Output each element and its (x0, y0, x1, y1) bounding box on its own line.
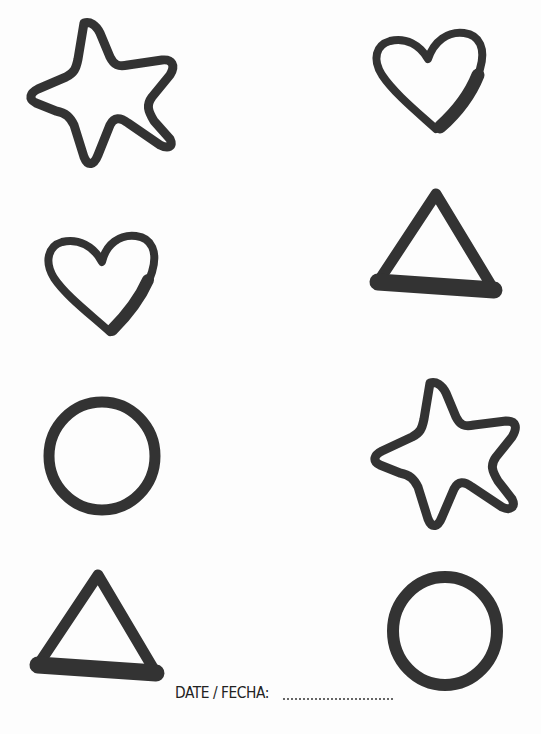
worksheet-page: DATE / FECHA: (0, 0, 541, 734)
triangle-shape-left[interactable] (30, 565, 166, 685)
date-field: DATE / FECHA: (175, 684, 393, 702)
star-icon (368, 375, 520, 530)
date-input-line[interactable] (283, 694, 393, 700)
star-shape-left[interactable] (26, 15, 178, 170)
heart-icon (372, 25, 488, 137)
circle-shape-left[interactable] (42, 395, 162, 517)
star-shape-right[interactable] (368, 375, 520, 530)
date-label: DATE / FECHA: (175, 684, 269, 702)
triangle-shape-right[interactable] (370, 184, 504, 304)
heart-icon (44, 230, 160, 340)
heart-shape-right[interactable] (372, 25, 488, 137)
circle-shape-right[interactable] (385, 570, 505, 692)
triangle-icon (370, 184, 504, 304)
heart-shape-left[interactable] (44, 230, 160, 340)
circle-icon (385, 570, 505, 692)
circle-icon (42, 395, 162, 517)
star-icon (26, 15, 178, 170)
triangle-icon (30, 565, 166, 685)
